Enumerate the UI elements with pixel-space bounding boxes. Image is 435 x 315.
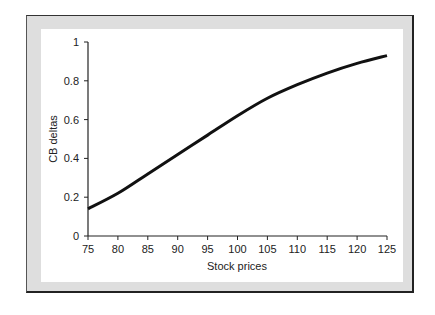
x-tick-label: 115 [318,243,336,255]
y-tick-label: 0.2 [64,191,79,203]
y-axis-label: CB deltas [47,115,59,163]
x-tick-label: 95 [201,243,213,255]
x-tick-label: 85 [142,243,154,255]
x-tick-label: 110 [289,243,307,255]
y-tick-label: 0.4 [64,152,79,164]
x-tick-label: 105 [258,243,276,255]
x-tick-label: 100 [228,243,246,255]
x-tick-label: 75 [82,243,94,255]
y-tick-label: 0.8 [64,75,79,87]
x-tick-label: 80 [112,243,124,255]
y-tick-label: 0 [73,230,79,242]
cb-delta-curve [88,56,387,209]
y-tick-label: 0.6 [64,114,79,126]
ticks: 758085909510010511011512012500.20.40.60.… [64,36,396,255]
x-tick-label: 120 [348,243,366,255]
x-axis-label: Stock prices [207,260,267,272]
axes [88,42,387,236]
line-chart: 758085909510010511011512012500.20.40.60.… [0,0,435,315]
x-tick-label: 90 [172,243,184,255]
x-tick-label: 125 [378,243,396,255]
y-tick-label: 1 [73,36,79,48]
